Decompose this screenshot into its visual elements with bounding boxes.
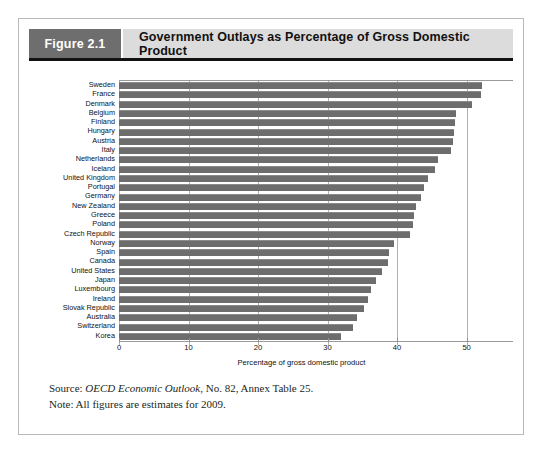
bar-row: New Zealand: [119, 202, 484, 211]
tick-mark-40: [397, 338, 398, 342]
bar: [119, 156, 438, 163]
bar: [119, 286, 371, 293]
category-label: Czech Republic: [64, 229, 115, 238]
bar: [119, 184, 424, 191]
bar: [119, 194, 421, 201]
bar-chart: SwedenFranceDenmarkBelgiumFinlandHungary…: [29, 69, 513, 374]
category-label: Canada: [89, 256, 115, 265]
bar-row: Iceland: [119, 165, 484, 174]
category-label: Sweden: [89, 80, 115, 89]
category-label: Iceland: [91, 164, 115, 173]
bar-row: Finland: [119, 118, 484, 127]
bar-row: Germany: [119, 192, 484, 201]
bar-row: Sweden: [119, 81, 484, 90]
bar: [119, 212, 414, 219]
bar-row: Denmark: [119, 100, 484, 109]
x-tick-label: 10: [184, 343, 192, 352]
bar: [119, 305, 364, 312]
x-axis-title: Percentage of gross domestic product: [119, 358, 484, 367]
source-line: Source: OECD Economic Outlook, No. 82, A…: [49, 381, 503, 397]
bar: [119, 91, 481, 98]
x-axis-line: [119, 341, 513, 342]
bar: [119, 82, 482, 89]
category-label: France: [92, 89, 115, 98]
figure-notes: Source: OECD Economic Outlook, No. 82, A…: [49, 381, 503, 413]
bar-row: Netherlands: [119, 155, 484, 164]
bar: [119, 129, 454, 136]
bar: [119, 175, 428, 182]
bar-row: Slovak Republic: [119, 304, 484, 313]
category-label: Finland: [91, 117, 115, 126]
bar: [119, 147, 451, 154]
bar: [119, 268, 382, 275]
category-label: Denmark: [85, 99, 115, 108]
chart-area: SwedenFranceDenmarkBelgiumFinlandHungary…: [29, 69, 513, 374]
bar-row: Luxembourg: [119, 285, 484, 294]
bar: [119, 314, 357, 321]
bar-row: Korea: [119, 332, 484, 341]
bar: [119, 101, 472, 108]
bar: [119, 203, 416, 210]
bar: [119, 231, 410, 238]
category-label: Poland: [92, 219, 115, 228]
bar-row: Switzerland: [119, 322, 484, 331]
x-tick-label: 40: [393, 343, 401, 352]
category-label: New Zealand: [72, 201, 115, 210]
bar-row: Italy: [119, 146, 484, 155]
note-line: Note: All figures are estimates for 2009…: [49, 397, 503, 413]
bar: [119, 110, 456, 117]
bar: [119, 324, 353, 331]
bar-row: Czech Republic: [119, 230, 484, 239]
bars-region: SwedenFranceDenmarkBelgiumFinlandHungary…: [119, 81, 484, 341]
category-label: Ireland: [93, 294, 115, 303]
category-label: Belgium: [89, 108, 115, 117]
bar: [119, 333, 341, 340]
x-tick-label: 30: [323, 343, 331, 352]
bar-row: Canada: [119, 257, 484, 266]
bar-row: United Kingdom: [119, 174, 484, 183]
category-label: Japan: [95, 275, 115, 284]
category-label: Spain: [96, 247, 115, 256]
bar: [119, 296, 368, 303]
tick-mark-0: [119, 338, 120, 342]
source-publication: OECD Economic Outlook: [85, 382, 200, 394]
bar: [119, 240, 394, 247]
bar-row: Hungary: [119, 127, 484, 136]
bar-row: Australia: [119, 313, 484, 322]
bar-row: Poland: [119, 220, 484, 229]
category-label: Australia: [87, 312, 115, 321]
figure-number-badge: Figure 2.1: [29, 29, 121, 58]
bar-row: Greece: [119, 211, 484, 220]
bar-row: Portugal: [119, 183, 484, 192]
x-tick-label: 20: [254, 343, 262, 352]
bar-row: Spain: [119, 248, 484, 257]
x-tick-label: 50: [462, 343, 470, 352]
bar-row: Norway: [119, 239, 484, 248]
category-label: Portugal: [88, 182, 115, 191]
category-label: Norway: [90, 238, 115, 247]
category-label: Greece: [91, 210, 115, 219]
category-label: Korea: [96, 331, 115, 340]
source-prefix: Source:: [49, 382, 85, 394]
tick-mark-10: [189, 338, 190, 342]
bar: [119, 166, 435, 173]
bar: [119, 138, 453, 145]
bar-row: Ireland: [119, 295, 484, 304]
category-label: United States: [71, 266, 115, 275]
bar-row: Japan: [119, 276, 484, 285]
bar: [119, 249, 389, 256]
tick-mark-30: [328, 338, 329, 342]
figure-title: Government Outlays as Percentage of Gros…: [121, 29, 513, 58]
category-label: Slovak Republic: [63, 303, 115, 312]
bar: [119, 221, 413, 228]
bar: [119, 119, 455, 126]
x-tick-label: 0: [117, 343, 121, 352]
category-label: Italy: [102, 145, 115, 154]
category-label: Hungary: [87, 126, 115, 135]
bar-row: France: [119, 90, 484, 99]
figure-header: Figure 2.1 Government Outlays as Percent…: [29, 29, 513, 61]
tick-mark-20: [258, 338, 259, 342]
bar: [119, 277, 376, 284]
category-label: Germany: [85, 191, 115, 200]
bar-row: Belgium: [119, 109, 484, 118]
